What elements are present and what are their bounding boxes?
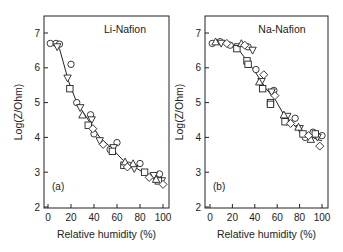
y-tick-label: 5 [34,97,40,108]
square-marker [259,85,265,91]
x-tick-label: 40 [88,212,100,223]
y-tick-label: 7 [195,28,201,39]
square-marker [109,148,115,154]
x-tick-label: 60 [272,212,284,223]
panel-label: (a) [52,181,64,192]
y-tick-label: 5 [195,97,201,108]
circle-marker [68,61,74,67]
y-tick-label: 4 [195,132,201,143]
circle-marker [253,66,259,72]
square-marker [312,131,318,137]
diamond-marker [260,71,268,79]
plot-frame [205,16,328,208]
x-tick-label: 0 [207,212,213,223]
y-tick-label: 3 [34,167,40,178]
series-triangle-down [218,40,322,141]
y-tick-label: 2 [195,202,201,213]
panel-li-nafion: 020406080100234567Relative humidity (%)L… [12,16,172,240]
x-tick-label: 60 [111,212,123,223]
series-circle [47,40,163,177]
fit-line [213,42,322,141]
chart-svg: 020406080100234567Relative humidity (%)L… [0,0,343,252]
square-marker [245,61,251,67]
panel-title: Li-Nafion [104,23,146,35]
x-axis-label: Relative humidity (%) [57,228,156,240]
panel-label: (b) [213,181,225,192]
figure: 020406080100234567Relative humidity (%)L… [0,0,343,252]
x-tick-label: 100 [155,212,172,223]
y-tick-label: 4 [34,132,40,143]
x-tick-label: 40 [249,212,261,223]
series-diamond [223,39,324,150]
y-tick-label: 6 [195,62,201,73]
circle-marker [292,115,298,121]
x-tick-label: 80 [134,212,146,223]
x-tick-label: 20 [227,212,239,223]
x-tick-label: 20 [65,212,77,223]
panel-title: Na-Nafion [258,23,305,35]
x-tick-label: 100 [314,212,331,223]
y-tick-label: 3 [195,167,201,178]
square-marker [267,101,273,107]
square-marker [141,169,147,175]
x-axis-label: Relative humidity (%) [217,228,316,240]
triangle-down-marker [64,75,71,82]
triangle-down-marker [249,47,256,54]
y-axis-label: Log(Z/Ohm) [173,84,185,141]
y-tick-label: 7 [34,28,40,39]
y-axis-label: Log(Z/Ohm) [12,84,24,141]
x-tick-label: 0 [45,212,51,223]
diamond-marker [316,142,324,150]
square-marker [67,85,73,91]
panel-na-nafion: 020406080100234567Relative humidity (%)L… [173,16,331,240]
circle-marker [156,171,162,177]
series-square [67,85,162,184]
triangle-down-marker [77,105,84,112]
x-tick-label: 80 [294,212,306,223]
y-tick-label: 6 [34,62,40,73]
y-tick-label: 2 [34,202,40,213]
